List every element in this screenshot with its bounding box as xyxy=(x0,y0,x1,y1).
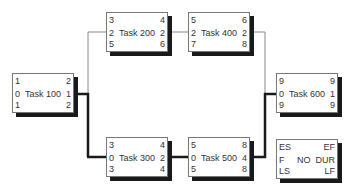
legend-f: F xyxy=(279,155,285,165)
task-name: Task 600 xyxy=(289,89,325,99)
task-node-600[interactable]: 9 9 0 Task 600 1 9 9 xyxy=(276,73,338,113)
task-name: Task 300 xyxy=(119,153,155,163)
legend-no: NO xyxy=(297,155,311,165)
float: 2 xyxy=(191,28,196,38)
duration: 1 xyxy=(330,89,335,99)
early-start: 5 xyxy=(191,140,196,150)
legend-dur: DUR xyxy=(316,155,336,165)
float: 0 xyxy=(15,89,20,99)
early-finish: 6 xyxy=(242,15,247,25)
late-finish: 2 xyxy=(66,100,71,110)
early-finish: 4 xyxy=(160,140,165,150)
early-finish: 4 xyxy=(160,15,165,25)
early-finish: 8 xyxy=(242,140,247,150)
task-name: Task 200 xyxy=(119,28,155,38)
task-node-200[interactable]: 3 4 2 Task 200 2 5 6 xyxy=(106,12,168,52)
legend-lf: LF xyxy=(324,166,335,176)
late-finish: 6 xyxy=(160,39,165,49)
late-finish: 8 xyxy=(242,39,247,49)
duration: 2 xyxy=(160,153,165,163)
task-node-300[interactable]: 3 4 0 Task 300 2 3 4 xyxy=(106,137,168,177)
float: 0 xyxy=(279,89,284,99)
float: 0 xyxy=(109,153,114,163)
legend-key: ES EF F NO DUR LS LF xyxy=(276,139,338,179)
early-finish: 9 xyxy=(330,76,335,86)
task-name: Task 100 xyxy=(25,89,61,99)
early-start: 3 xyxy=(109,140,114,150)
late-start: 7 xyxy=(191,39,196,49)
late-start: 5 xyxy=(109,39,114,49)
late-start: 9 xyxy=(279,100,284,110)
duration: 4 xyxy=(242,153,247,163)
late-finish: 8 xyxy=(242,164,247,174)
duration: 2 xyxy=(242,28,247,38)
task-name: Task 500 xyxy=(201,153,237,163)
duration: 1 xyxy=(66,89,71,99)
duration: 2 xyxy=(160,28,165,38)
early-start: 9 xyxy=(279,76,284,86)
legend-ls: LS xyxy=(279,166,290,176)
task-node-100[interactable]: 1 2 0 Task 100 1 1 2 xyxy=(12,73,74,113)
legend-ef: EF xyxy=(323,142,335,152)
legend-es: ES xyxy=(279,142,291,152)
float: 2 xyxy=(109,28,114,38)
late-finish: 9 xyxy=(330,100,335,110)
early-finish: 2 xyxy=(66,76,71,86)
early-start: 3 xyxy=(109,15,114,25)
task-node-500[interactable]: 5 8 0 Task 500 4 5 8 xyxy=(188,137,250,177)
float: 0 xyxy=(191,153,196,163)
early-start: 1 xyxy=(15,76,20,86)
early-start: 5 xyxy=(191,15,196,25)
late-start: 1 xyxy=(15,100,20,110)
task-name: Task 400 xyxy=(201,28,237,38)
late-start: 3 xyxy=(109,164,114,174)
late-start: 5 xyxy=(191,164,196,174)
late-finish: 4 xyxy=(160,164,165,174)
task-node-400[interactable]: 5 6 2 Task 400 2 7 8 xyxy=(188,12,250,52)
